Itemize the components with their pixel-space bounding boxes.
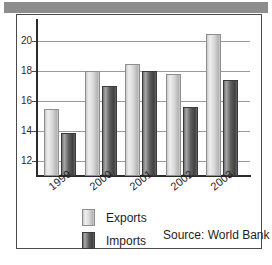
top-gray-band (4, 2, 268, 13)
bar-group (85, 20, 117, 176)
legend-item-exports[interactable]: Exports (82, 208, 147, 227)
plot-area (38, 20, 250, 176)
bar-imports-2003[interactable] (223, 80, 238, 176)
bar-exports-1999[interactable] (44, 109, 59, 177)
bar-exports-2003[interactable] (206, 34, 221, 177)
bar-group (44, 20, 76, 176)
bar-imports-2002[interactable] (183, 107, 198, 176)
bar-group (166, 20, 198, 176)
bar-exports-2000[interactable] (85, 71, 100, 176)
bar-group (125, 20, 157, 176)
y-tick-label: 20 (8, 36, 32, 46)
bar-group (206, 20, 238, 176)
chart-legend: Exports Imports (82, 208, 147, 254)
legend-item-imports[interactable]: Imports (82, 231, 147, 250)
y-tick-label: 16 (8, 96, 32, 106)
y-tick-label: 18 (8, 66, 32, 76)
legend-label-imports: Imports (106, 234, 146, 248)
bar-imports-2000[interactable] (102, 86, 117, 176)
y-tick-label: 14 (8, 126, 32, 136)
chart-figure: 1214161820 19992000200120022003 Exports … (0, 0, 272, 265)
legend-label-exports: Exports (106, 211, 147, 225)
y-tick-label: 12 (8, 156, 32, 166)
imports-swatch (82, 232, 95, 249)
source-note: Source: World Bank (163, 228, 270, 242)
bar-exports-2002[interactable] (166, 74, 181, 176)
bar-exports-2001[interactable] (125, 64, 140, 177)
bar-imports-2001[interactable] (142, 71, 157, 176)
exports-swatch (82, 209, 95, 226)
y-axis-labels: 1214161820 (4, 0, 32, 265)
